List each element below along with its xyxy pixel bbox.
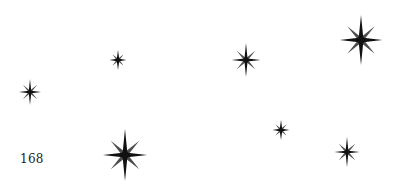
page: 168 bbox=[0, 0, 397, 189]
page-number: 168 bbox=[20, 152, 44, 166]
sparkle-star-icon bbox=[332, 137, 362, 167]
sparkle-star-icon bbox=[108, 50, 128, 70]
sparkle-star-icon bbox=[17, 79, 43, 105]
sparkle-star-icon bbox=[336, 15, 386, 65]
sparkle-star-icon bbox=[99, 129, 151, 181]
sparkle-star-icon bbox=[229, 43, 263, 77]
sparkle-star-icon bbox=[271, 120, 291, 140]
